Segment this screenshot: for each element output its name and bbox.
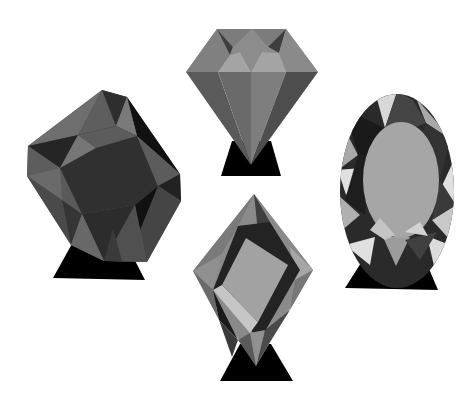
cushion-gem [27,90,181,280]
gems-illustration [0,0,473,406]
heart-gem [186,29,318,176]
oval-gem [338,92,456,290]
kite-gem [193,194,313,381]
